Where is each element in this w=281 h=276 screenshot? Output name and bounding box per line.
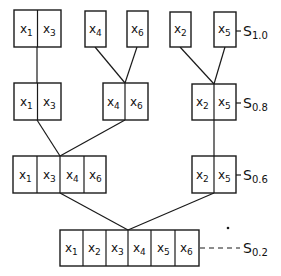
level-s0-2: x1 x2 x3 x4 x5 x6 S0.2 xyxy=(60,227,268,266)
group-x1-x3: x1 x3 xyxy=(14,83,61,120)
group-x4: x4 xyxy=(85,11,106,47)
tree-edges xyxy=(37,47,225,230)
level-label-s0-6: S0.6 xyxy=(243,167,268,185)
stray-dot xyxy=(227,227,230,230)
level-label-s0-2: S0.2 xyxy=(243,240,268,258)
edge-x2x5-to-all xyxy=(128,193,214,230)
edge-x1x3-to-x1x3x4x6 xyxy=(37,120,60,156)
level-s0-8: x1 x3 x4 x6 x2 x5 S0.8 xyxy=(14,83,268,120)
edge-x2-to-x2x5 xyxy=(180,47,214,84)
level-label-s1-0: S1.0 xyxy=(243,23,268,41)
edge-x4-to-x4x6 xyxy=(95,47,125,83)
group-x2-x5: x2 x5 xyxy=(192,84,236,120)
clustering-diagram: x1 x3 x4 x6 x2 x5 S1.0 x1 x3 xyxy=(0,0,281,276)
group-x2: x2 xyxy=(170,12,191,47)
level-s1-0: x1 x3 x4 x6 x2 x5 S1.0 xyxy=(14,10,268,47)
level-label-s0-8: S0.8 xyxy=(243,95,268,113)
edge-x6-to-x4x6 xyxy=(125,47,137,83)
group-x6: x6 xyxy=(127,11,148,47)
edge-x1x3x4x6-to-all xyxy=(60,193,128,230)
level-s0-6: x1 x3 x4 x6 x2 x5 S0.6 xyxy=(13,156,268,193)
group-x2-x5: x2 x5 xyxy=(192,156,236,193)
group-x1-x3-x4-x6: x1 x3 x4 x6 xyxy=(13,156,106,193)
group-x1-x3: x1 x3 xyxy=(14,10,61,47)
group-all-vars: x1 x2 x3 x4 x5 x6 xyxy=(60,230,199,266)
group-x5: x5 xyxy=(214,12,236,47)
edge-x4x6-to-x1x3x4x6 xyxy=(60,120,125,156)
group-x4-x6: x4 x6 xyxy=(103,83,148,120)
edge-x5-to-x2x5 xyxy=(214,47,225,84)
